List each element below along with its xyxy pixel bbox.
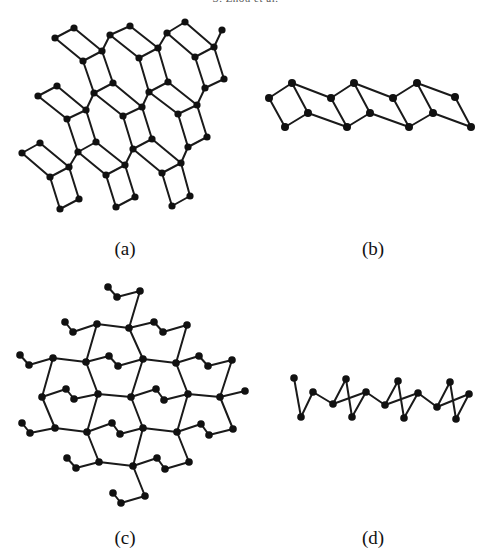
bond-line [178, 114, 188, 147]
atom-node [160, 396, 168, 404]
atom-node [350, 79, 358, 87]
bond-line [181, 163, 190, 196]
bond-line [285, 113, 308, 127]
atom-node [400, 414, 408, 422]
bond-line [57, 86, 86, 110]
atom-node [139, 424, 147, 432]
bond-line [177, 432, 189, 462]
atom-node [297, 413, 305, 421]
panel-label-b: (b) [362, 238, 384, 260]
atom-node [83, 428, 91, 436]
bond-line [38, 96, 67, 119]
atom-node [90, 89, 97, 96]
atom-node [82, 358, 90, 366]
structure-d-zigzag-chain [290, 374, 473, 423]
bond-line [168, 82, 197, 105]
bond-line [139, 58, 149, 92]
bond-line [177, 394, 188, 432]
atom-node [152, 385, 160, 393]
atom-node [191, 53, 198, 60]
bond-line [214, 47, 224, 79]
atom-node [174, 110, 181, 117]
bond-line [162, 173, 172, 206]
atom-node [53, 82, 60, 89]
atom-node [348, 413, 356, 421]
panel-label-a: (a) [114, 238, 135, 260]
atom-node [150, 318, 158, 326]
atom-node [25, 361, 33, 369]
atom-node [113, 293, 121, 301]
atom-node [451, 93, 459, 101]
atom-node [136, 287, 144, 295]
bond-line [40, 143, 69, 167]
structure-b-chain [265, 79, 475, 131]
atom-node [195, 352, 203, 360]
bond-line [331, 83, 354, 98]
atom-node [109, 489, 117, 497]
atom-node [18, 419, 26, 427]
structure-a-cluster [18, 18, 227, 212]
bond-line [110, 35, 139, 58]
atom-node [241, 387, 249, 395]
bond-line [176, 363, 188, 394]
bond-line [113, 83, 142, 107]
atom-node [126, 22, 133, 29]
atom-node [164, 78, 171, 85]
bond-line [197, 105, 207, 137]
atom-node [181, 18, 188, 25]
atom-node [405, 123, 413, 131]
bond-line [129, 291, 140, 328]
figure-canvas [0, 0, 491, 558]
atom-node [56, 205, 63, 212]
atom-node [112, 203, 119, 210]
atom-node [197, 420, 205, 428]
atom-node [148, 135, 155, 142]
bond-line [131, 389, 156, 397]
atom-node [204, 362, 212, 370]
bond-line [42, 358, 53, 397]
atom-node [216, 393, 224, 401]
atom-node [105, 352, 113, 360]
bond-line [133, 149, 162, 173]
atom-node [51, 424, 59, 432]
bond-line [176, 325, 187, 363]
bond-line [50, 177, 60, 209]
atom-node [72, 464, 80, 472]
atom-node [131, 193, 138, 200]
atom-node [38, 393, 46, 401]
bond-line [269, 98, 285, 127]
atom-node [288, 79, 296, 87]
bond-line [87, 432, 99, 462]
atom-node [362, 388, 370, 396]
atom-node [116, 430, 124, 438]
atom-node [184, 390, 192, 398]
atom-node [49, 354, 57, 362]
atom-node [343, 123, 351, 131]
atom-node [109, 79, 116, 86]
atom-node [201, 84, 208, 91]
atom-node [129, 462, 137, 470]
atom-node [108, 419, 116, 427]
atom-node [82, 106, 89, 113]
atom-node [63, 115, 70, 122]
atom-node [102, 171, 109, 178]
bond-line [106, 175, 116, 207]
bond-line [86, 110, 96, 142]
atom-node [135, 54, 142, 61]
bond-line [269, 83, 292, 98]
bond-line [123, 116, 133, 149]
bond-line [96, 142, 125, 165]
atom-node [114, 362, 122, 370]
bond-line [129, 322, 154, 328]
atom-node [185, 458, 193, 466]
bond-line [301, 392, 313, 417]
bond-line [53, 358, 86, 362]
atom-node [70, 24, 77, 31]
bond-line [393, 83, 417, 98]
bond-line [129, 328, 143, 359]
atom-node [193, 101, 200, 108]
panel-label-c: (c) [114, 527, 135, 549]
atom-node [104, 283, 112, 291]
atom-node [413, 79, 421, 87]
bond-line [78, 152, 106, 175]
